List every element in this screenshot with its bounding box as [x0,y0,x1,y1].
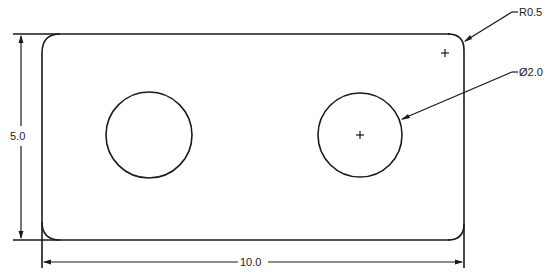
height-dimension-label: 5.0 [10,130,25,142]
radius-label: R0.5 [519,6,542,18]
hole-left [106,92,192,178]
corner-arc-bottom-right [448,224,464,240]
center-mark-hole-right [356,131,364,139]
arrowhead-up-icon [19,35,24,43]
radius-leader [464,12,518,42]
width-dimension-label: 10.0 [240,256,261,268]
corner-arc-bottom-left [42,222,60,240]
leader-arrowhead-icon [464,35,472,42]
center-mark-corner [441,49,449,57]
diameter-leader [401,72,518,120]
arrowhead-right-icon [455,260,463,265]
corner-arc-top-right [448,34,464,50]
arrowhead-left-icon [43,260,51,265]
diameter-label: Ø2.0 [519,66,543,78]
arrowhead-down-icon [19,231,24,239]
leader-arrowhead-icon [401,114,410,120]
corner-arc-top-left [42,34,60,53]
technical-drawing [0,0,550,280]
plate-outline [13,34,464,268]
